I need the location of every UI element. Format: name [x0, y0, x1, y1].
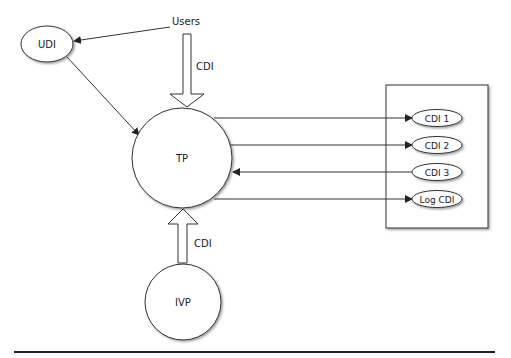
clark-wilson-diagram: Users UDI CDI TP CDI IVP CDI 1 CDI [0, 0, 511, 358]
udi-node: UDI [21, 26, 73, 62]
cdi-item-label: CDI 2 [425, 141, 449, 151]
udi-to-tp-arrow [67, 57, 139, 135]
ivp-node: IVP [145, 264, 221, 340]
ivp-to-tp-cdi-label: CDI [194, 238, 212, 249]
users-to-tp-block-arrow: CDI [170, 34, 214, 107]
users-to-udi-arrow [74, 27, 170, 41]
users-to-tp-cdi-label: CDI [196, 61, 214, 72]
tp-node: TP [132, 108, 232, 208]
cdi-item-log: Log CDI [412, 191, 462, 208]
cdi-item-label: CDI 3 [425, 168, 449, 178]
udi-label: UDI [38, 39, 56, 50]
tp-label: TP [175, 153, 188, 164]
cdi-item-1: CDI 1 [412, 110, 462, 127]
cdi-item-label: CDI 1 [425, 114, 449, 124]
cdi-item-3: CDI 3 [412, 164, 462, 181]
cdi-item-2: CDI 2 [412, 137, 462, 154]
users-label: Users [172, 16, 200, 27]
cdi-item-label: Log CDI [420, 195, 455, 205]
users-node: Users [172, 16, 200, 27]
ivp-to-tp-block-arrow: CDI [168, 209, 212, 263]
ivp-label: IVP [175, 297, 191, 308]
